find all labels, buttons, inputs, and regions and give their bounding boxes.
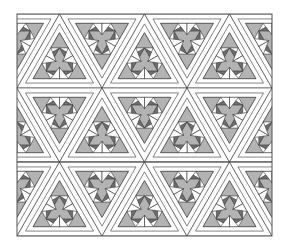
white-notch bbox=[275, 41, 285, 55]
dark-diamond bbox=[4, 179, 17, 202]
dark-diamond bbox=[4, 31, 17, 54]
quilt-pattern-svg bbox=[0, 0, 289, 252]
white-notch bbox=[0, 130, 14, 138]
triangle-block bbox=[0, 88, 17, 162]
white-notch bbox=[275, 130, 289, 138]
sashing-strip bbox=[0, 172, 9, 231]
pattern-group bbox=[0, 14, 289, 236]
light-triangle bbox=[0, 211, 1, 226]
white-notch bbox=[8, 171, 17, 182]
white-notch bbox=[275, 189, 285, 203]
white-notch bbox=[0, 39, 14, 47]
white-notch bbox=[275, 122, 285, 136]
white-notch bbox=[8, 23, 17, 34]
triangle-block bbox=[272, 14, 289, 88]
white-notch bbox=[272, 141, 281, 152]
light-triangle bbox=[0, 171, 8, 186]
white-notch bbox=[4, 122, 14, 136]
dark-diamond bbox=[272, 122, 285, 145]
light-triangle bbox=[0, 63, 1, 78]
dark-diamond bbox=[272, 31, 285, 54]
sashing-strip bbox=[281, 93, 290, 152]
light-triangle bbox=[281, 23, 289, 38]
white-notch bbox=[272, 23, 281, 34]
light-triangle bbox=[0, 97, 1, 112]
light-triangle bbox=[288, 97, 289, 112]
dark-diamond bbox=[272, 179, 285, 202]
light-triangle bbox=[288, 211, 289, 226]
triangle-block bbox=[0, 14, 17, 88]
light-triangle bbox=[281, 171, 289, 186]
white-notch bbox=[8, 141, 17, 152]
motif-field bbox=[0, 97, 1, 143]
sashing-strip bbox=[0, 24, 9, 83]
triangle-block bbox=[272, 162, 289, 236]
light-triangle bbox=[281, 137, 289, 152]
white-notch bbox=[0, 187, 14, 195]
motif-field bbox=[0, 33, 1, 79]
triangle-block bbox=[0, 162, 17, 236]
sashing-strip bbox=[281, 172, 290, 231]
dark-diamond bbox=[4, 122, 17, 145]
sashing-strip bbox=[281, 24, 290, 83]
motif-field bbox=[288, 97, 289, 143]
quilt-diagram bbox=[0, 0, 289, 252]
white-notch bbox=[272, 171, 281, 182]
white-notch bbox=[275, 187, 289, 195]
sashing-strip bbox=[0, 93, 9, 152]
motif-field bbox=[288, 33, 289, 79]
light-triangle bbox=[288, 63, 289, 78]
light-triangle bbox=[0, 23, 8, 38]
triangle-block bbox=[272, 88, 289, 162]
white-notch bbox=[4, 41, 14, 55]
white-notch bbox=[4, 189, 14, 203]
white-notch bbox=[275, 39, 289, 47]
motif-field bbox=[0, 181, 1, 227]
motif-field bbox=[288, 181, 289, 227]
light-triangle bbox=[0, 137, 8, 152]
